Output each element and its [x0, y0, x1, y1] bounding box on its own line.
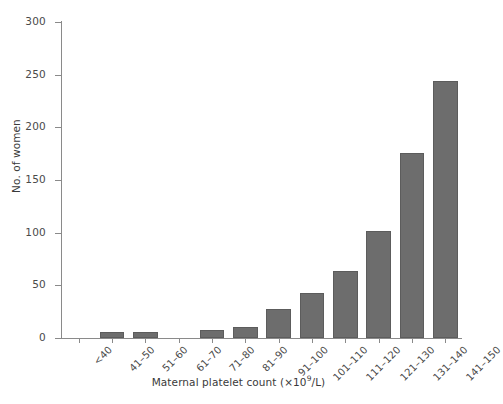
x-axis-tick-label: 41–50 — [127, 344, 157, 374]
bar — [100, 332, 125, 338]
bar-slot — [166, 22, 191, 338]
bar — [266, 309, 291, 338]
x-axis-tick — [179, 339, 180, 343]
y-axis-tick-label: 150 — [0, 174, 46, 185]
bar-slot — [366, 22, 391, 338]
bar-slot — [266, 22, 291, 338]
bar-slot — [233, 22, 258, 338]
x-axis-tick-label: <40 — [91, 344, 114, 367]
bar — [300, 293, 325, 338]
bar — [333, 271, 358, 338]
bar-slot — [300, 22, 325, 338]
bar-slot — [200, 22, 225, 338]
y-axis-tick — [55, 180, 61, 181]
bar — [400, 153, 425, 338]
x-axis-tick — [279, 339, 280, 343]
bar-slot — [333, 22, 358, 338]
plot-area — [62, 22, 462, 338]
x-axis-tick — [145, 339, 146, 343]
x-axis-tick-label: 61–70 — [194, 344, 224, 374]
bar-slot — [133, 22, 158, 338]
x-axis-tick-label: 81–90 — [260, 344, 290, 374]
bar — [433, 81, 458, 338]
y-axis-tick-label: 50 — [0, 279, 46, 290]
x-axis-tick — [79, 339, 80, 343]
x-axis-tick-label: 71–80 — [227, 344, 257, 374]
y-axis-tick-label: 0 — [0, 332, 46, 343]
x-axis-tick — [412, 339, 413, 343]
x-axis-tick-label: 51–60 — [160, 344, 190, 374]
y-axis-tick — [55, 22, 61, 23]
y-axis-tick-label: 100 — [0, 227, 46, 238]
bar-slot — [66, 22, 91, 338]
x-axis-title-main: Maternal platelet count (×10 — [152, 376, 307, 388]
y-axis-tick-label: 250 — [0, 69, 46, 80]
x-axis-tick — [312, 339, 313, 343]
bar — [133, 332, 158, 338]
y-axis-tick — [55, 285, 61, 286]
x-axis-title-tail: /L) — [312, 376, 326, 388]
x-axis-tick — [379, 339, 380, 343]
bar-slot — [100, 22, 125, 338]
bar — [233, 327, 258, 338]
y-axis-tick — [55, 233, 61, 234]
x-axis-tick — [212, 339, 213, 343]
bar-slot — [400, 22, 425, 338]
x-axis-tick — [445, 339, 446, 343]
x-axis-tick — [345, 339, 346, 343]
y-axis-tick — [55, 75, 61, 76]
bar — [200, 330, 225, 338]
y-axis-title: No. of women — [10, 96, 22, 216]
x-axis-title: Maternal platelet count (×109/L) — [0, 374, 477, 388]
y-axis-tick — [55, 127, 61, 128]
y-axis-tick — [55, 338, 61, 339]
bar-slot — [433, 22, 458, 338]
x-axis-tick — [245, 339, 246, 343]
bar — [366, 231, 391, 338]
y-axis-tick-label: 200 — [0, 121, 46, 132]
x-axis-line — [61, 338, 462, 339]
x-axis-tick — [112, 339, 113, 343]
y-axis-tick-label: 300 — [0, 16, 46, 27]
